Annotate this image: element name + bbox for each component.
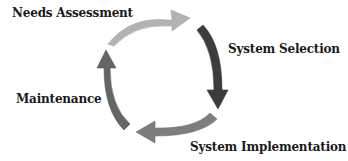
arrow-system-selection-icon <box>197 25 228 109</box>
stage-label-system-selection: System Selection <box>228 42 340 56</box>
stage-label-maintenance: Maintenance <box>16 92 102 106</box>
cycle-diagram: Needs Assessment System Selection System… <box>0 0 348 161</box>
stage-label-system-implementation: System Implementation <box>190 140 346 154</box>
stage-label-needs-assessment: Needs Assessment <box>12 6 133 20</box>
arrow-system-implementation-icon <box>136 113 217 143</box>
arrow-maintenance-icon <box>97 50 130 130</box>
cycle-arrows <box>0 0 348 161</box>
